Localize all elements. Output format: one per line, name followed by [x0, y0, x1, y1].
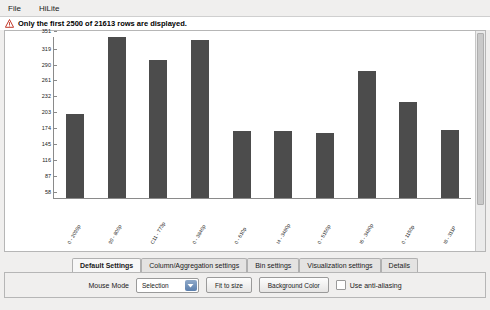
y-axis-tick-label: 174 [42, 125, 54, 131]
y-axis-tick-label: 203 [42, 109, 54, 115]
bar-series [54, 37, 471, 198]
x-axis-tick-label: I8 - 311P [442, 225, 457, 245]
chevron-down-icon[interactable] [185, 280, 197, 291]
x-axis-tick-labels: 0 - 2099p99 - 800pC11 - 773p0 - 3840p0 -… [53, 199, 471, 245]
settings-tab-bar: Default SettingsColumn/Aggregation setti… [4, 255, 486, 272]
warning-bar: Only the first 2500 of 21613 rows are di… [0, 16, 490, 30]
bar[interactable] [399, 102, 417, 198]
y-axis-tick-label: 58 [45, 189, 54, 195]
tab-details[interactable]: Details [381, 258, 418, 272]
bar[interactable] [274, 131, 292, 198]
menu-bar: File HiLite [0, 0, 490, 16]
bar[interactable] [441, 130, 459, 198]
mouse-mode-select[interactable]: Selection [136, 278, 199, 293]
tab-default-settings[interactable]: Default Settings [72, 258, 141, 272]
x-axis-tick-label: 99 - 800p [107, 224, 123, 245]
chart-vertical-scrollbar[interactable] [475, 31, 485, 251]
anti-aliasing-checkbox-wrap[interactable]: Use anti-aliasing [336, 280, 402, 290]
x-axis-tick-label: 0 - 3840p [191, 224, 207, 245]
application-window: File HiLite Only the first 2500 of 21613… [0, 0, 490, 310]
x-axis-tick-label: 0 - 1150p [400, 224, 416, 245]
y-axis-tick-label: 261 [42, 77, 54, 83]
bar[interactable] [233, 131, 251, 198]
bar-chart-plot-area[interactable]: 5887116145174203232261290319351 [53, 37, 471, 199]
y-axis-tick-label: 145 [42, 141, 54, 147]
x-axis-tick-label: 0 - 5150p [316, 224, 332, 245]
x-axis-tick-label: I6 - 3480p [358, 222, 374, 245]
tab-visualization-settings[interactable]: Visualization settings [299, 258, 380, 272]
fit-to-size-button[interactable]: Fit to size [206, 277, 252, 293]
anti-aliasing-checkbox[interactable] [336, 280, 346, 290]
x-axis-tick-label: C11 - 773p [149, 221, 166, 245]
x-axis-tick-label: 0 - 610p [233, 226, 247, 245]
y-axis-tick-label: 232 [42, 93, 54, 99]
plot-wrapper: 5887116145174203232261290319351 0 - 2099… [5, 31, 485, 251]
warning-triangle-icon [5, 19, 14, 28]
background-color-button[interactable]: Background Color [259, 277, 329, 293]
y-axis-tick-label: 319 [42, 46, 54, 52]
bar[interactable] [66, 114, 84, 198]
warning-text: Only the first 2500 of 21613 rows are di… [18, 19, 187, 28]
mouse-mode-label: Mouse Mode [88, 282, 128, 289]
x-axis-tick-label: I4 - 3480p [274, 222, 290, 245]
y-axis-tick-label: 116 [42, 157, 54, 163]
control-bar: Mouse Mode Selection Fit to size Backgro… [4, 272, 486, 298]
menu-item-file[interactable]: File [6, 3, 23, 14]
x-axis-tick-label: 0 - 2099p [65, 224, 81, 245]
chart-scrollbar-thumb[interactable] [477, 33, 484, 205]
bar[interactable] [316, 133, 334, 198]
bar[interactable] [149, 60, 167, 198]
tab-column-aggregation-settings[interactable]: Column/Aggregation settings [141, 258, 247, 272]
y-axis-tick-label: 351 [42, 28, 54, 34]
y-axis-tick-label: 87 [45, 173, 54, 179]
y-axis-tick-label: 290 [42, 62, 54, 68]
bar[interactable] [191, 40, 209, 198]
menu-item-hilite[interactable]: HiLite [37, 3, 61, 14]
bar[interactable] [108, 37, 126, 198]
bar[interactable] [358, 71, 376, 198]
tab-bin-settings[interactable]: Bin settings [247, 258, 299, 272]
mouse-mode-value: Selection [142, 282, 169, 289]
status-bar [0, 298, 490, 304]
chart-panel: 5887116145174203232261290319351 0 - 2099… [4, 30, 486, 252]
anti-aliasing-label: Use anti-aliasing [350, 282, 402, 289]
